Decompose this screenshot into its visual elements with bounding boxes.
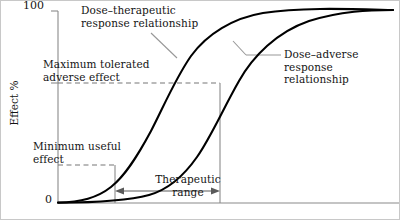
- therapeutic-range-arrow-head-left: [115, 188, 124, 195]
- therapeutic-range-label: Therapeutic range: [149, 173, 227, 198]
- callout-leader-lines: [151, 33, 281, 58]
- y-axis-title: Effect %: [8, 73, 20, 133]
- dose-adverse-response-label: Dose–adverse response relationship: [284, 48, 359, 86]
- maximum-tolerated-adverse-effect-label: Maximum tolerated adverse effect: [43, 58, 150, 83]
- y-axis-tick-label-100: 100: [23, 0, 44, 12]
- y-axis-tick-label-0: 0: [45, 193, 52, 206]
- minimum-useful-effect-label: Minimum useful effect: [33, 140, 121, 165]
- dose-response-chart: 100 0 Effect % Dose–therapeutic response…: [0, 0, 400, 220]
- dose-therapeutic-response-label: Dose–therapeutic response relationship: [81, 4, 198, 29]
- therapeutic-curve-leader-line: [151, 33, 177, 58]
- adverse-curve-leader-line-angled: [233, 41, 246, 55]
